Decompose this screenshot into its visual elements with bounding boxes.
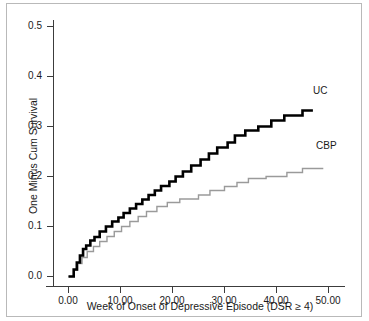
series-label-uc: UC bbox=[313, 85, 327, 96]
series-line-cbp bbox=[69, 169, 324, 277]
ytick-label-5: 0.0 bbox=[8, 270, 42, 281]
x-axis-ticks bbox=[69, 287, 329, 294]
survival-chart-figure: 0.5 0.4 0.3 0.2 0.1 0.0 0.00 10.00 20.00… bbox=[0, 0, 369, 321]
y-axis-ticks bbox=[47, 27, 54, 277]
plot-area bbox=[0, 0, 369, 321]
series-line-uc bbox=[69, 111, 313, 277]
x-axis-title: Week of Onset of Depressive Episode (DSR… bbox=[55, 300, 345, 312]
y-axis-title: One Minus Cum Survival bbox=[27, 76, 39, 236]
ytick-label-0: 0.5 bbox=[8, 20, 42, 31]
series-label-cbp: CBP bbox=[316, 140, 337, 151]
